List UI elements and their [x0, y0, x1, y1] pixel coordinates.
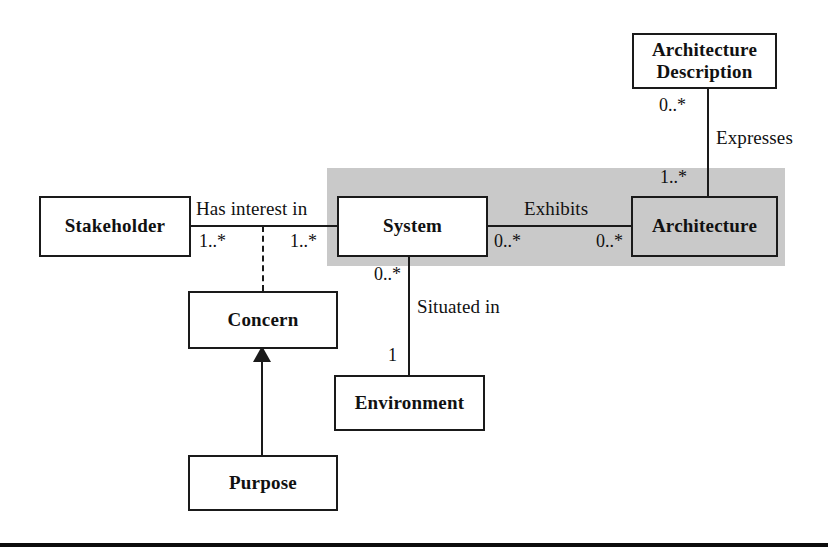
- node-label: System: [377, 215, 448, 237]
- node-architecture[interactable]: Architecture: [631, 196, 778, 257]
- edge-purpose-to-concern: [261, 360, 263, 456]
- node-architecture-description[interactable]: Architecture Description: [632, 33, 777, 89]
- edge-exhibits: [487, 225, 632, 227]
- multiplicity-situated-in-target: 1: [388, 345, 397, 366]
- node-label: Purpose: [223, 472, 303, 494]
- edge-label-expresses: Expresses: [716, 127, 793, 149]
- edge-expresses: [707, 88, 709, 198]
- multiplicity-expresses-target: 1..*: [660, 167, 687, 188]
- multiplicity-exhibits-source: 0..*: [494, 231, 521, 252]
- node-label: Architecture: [646, 215, 763, 237]
- multiplicity-expresses-source: 0..*: [659, 95, 686, 116]
- node-label: Architecture Description: [646, 39, 763, 84]
- multiplicity-has-interest-in-target: 1..*: [290, 231, 317, 252]
- uml-class-diagram: Architecture Description Stakeholder Sys…: [0, 0, 828, 557]
- node-label: Stakeholder: [59, 215, 171, 237]
- edge-has-interest-in: [190, 225, 338, 227]
- edge-label-situated-in: Situated in: [417, 296, 500, 318]
- multiplicity-exhibits-target: 0..*: [596, 231, 623, 252]
- multiplicity-situated-in-source: 0..*: [374, 264, 401, 285]
- node-label: Environment: [349, 392, 471, 414]
- node-environment[interactable]: Environment: [334, 375, 485, 431]
- edge-label-exhibits: Exhibits: [524, 198, 588, 220]
- bottom-divider: [0, 543, 828, 547]
- multiplicity-has-interest-in-source: 1..*: [199, 231, 226, 252]
- node-concern[interactable]: Concern: [188, 291, 338, 349]
- edge-situated-in: [408, 256, 410, 376]
- edge-label-has-interest-in: Has interest in: [196, 198, 307, 220]
- edge-concern-link: [262, 226, 264, 291]
- node-stakeholder[interactable]: Stakeholder: [39, 196, 191, 257]
- node-system[interactable]: System: [337, 196, 488, 257]
- node-purpose[interactable]: Purpose: [188, 455, 338, 511]
- node-label: Concern: [221, 309, 304, 331]
